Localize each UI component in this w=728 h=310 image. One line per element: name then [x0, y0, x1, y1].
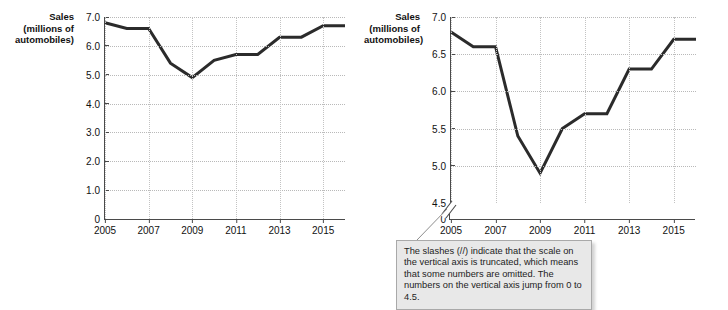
callout-text: The slashes (//) indicate that the scale… — [404, 246, 582, 302]
axis-truncation-callout: The slashes (//) indicate that the scale… — [396, 240, 592, 310]
